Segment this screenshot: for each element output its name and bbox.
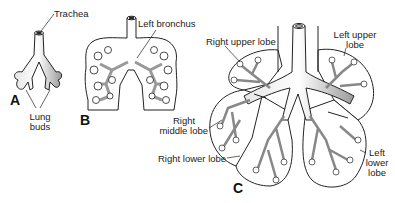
panel-a-drawing — [15, 31, 62, 90]
panel-label-b: B — [80, 112, 90, 128]
label-right-upper-lobe: Right upper lobe — [206, 36, 276, 47]
label-left-upper-lobe-line2: lobe — [326, 39, 384, 50]
label-left-bronchus: Left bronchus — [138, 18, 196, 29]
label-right-lower-lobe: Right lower lobe — [158, 153, 226, 164]
label-trachea: Trachea — [54, 8, 89, 19]
panel-label-c: C — [233, 180, 243, 196]
label-lung-buds-line2: buds — [26, 121, 54, 132]
panel-b-drawing — [85, 16, 177, 110]
label-right-middle-lobe-line2: middle lobe — [150, 125, 208, 136]
label-left-lower-lobe-line3: lobe — [362, 167, 392, 178]
panel-label-a: A — [10, 92, 20, 108]
